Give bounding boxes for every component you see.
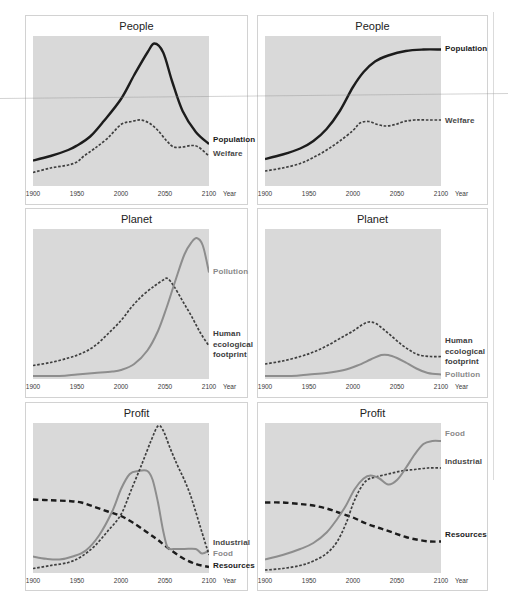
x-axis-label: Year <box>223 577 236 584</box>
plot-area <box>265 36 441 186</box>
series-label-resources: Resources <box>445 530 487 541</box>
x-tick: 1950 <box>302 383 316 390</box>
x-axis-label: Year <box>455 383 468 390</box>
x-tick: 2050 <box>390 577 404 584</box>
x-tick: 1900 <box>26 190 40 197</box>
x-axis-label: Year <box>455 190 468 197</box>
x-tick: 2000 <box>114 190 128 197</box>
chart-panel-people-left: People WelfarePopulation 190019502000205… <box>25 15 248 205</box>
x-axis: 19001950200020502100Year <box>258 383 487 395</box>
x-tick: 2050 <box>390 190 404 197</box>
series-label-welfare: Welfare <box>445 116 474 127</box>
x-axis: 19001950200020502100Year <box>258 190 487 202</box>
x-tick: 2100 <box>202 577 216 584</box>
x-tick: 1950 <box>70 190 84 197</box>
series-curve-population <box>33 44 209 161</box>
chart-canvas <box>33 229 209 379</box>
x-axis-label: Year <box>223 190 236 197</box>
chart-title: Planet <box>26 213 247 225</box>
x-tick: 2000 <box>346 190 360 197</box>
chart-canvas <box>265 36 441 186</box>
series-label-industrial: Industrial <box>213 538 250 549</box>
series-label-food: Food <box>445 429 465 440</box>
series-labels: HumanecologicalfootprintPollution <box>213 229 257 379</box>
series-curve-human-ecological-footprint <box>33 278 209 365</box>
x-axis: 19001950200020502100Year <box>26 190 247 202</box>
x-tick: 1900 <box>26 577 40 584</box>
x-tick: 2100 <box>434 190 448 197</box>
chart-title: People <box>26 20 247 32</box>
chart-panel-planet-right: Planet PollutionHumanecologicalfootprint… <box>257 208 488 398</box>
series-curve-pollution <box>265 355 441 377</box>
series-label-resources: Resources <box>213 561 255 572</box>
chart-title: Planet <box>258 213 487 225</box>
x-tick: 2000 <box>114 577 128 584</box>
x-tick: 1950 <box>302 190 316 197</box>
x-tick: 2000 <box>346 577 360 584</box>
plot-area <box>33 423 209 573</box>
chart-title: Profit <box>26 407 247 419</box>
scanned-figure-page: { "page": { "plot_background": "#d9d9d9"… <box>0 0 508 602</box>
x-tick: 2100 <box>434 577 448 584</box>
series-labels: WelfarePopulation <box>445 36 489 186</box>
x-tick: 1950 <box>70 383 84 390</box>
x-tick: 1900 <box>258 383 272 390</box>
x-tick: 2100 <box>202 190 216 197</box>
x-axis: 19001950200020502100Year <box>26 383 247 395</box>
x-tick: 2050 <box>390 383 404 390</box>
series-label-pollution: Pollution <box>445 370 480 381</box>
x-tick: 1950 <box>70 577 84 584</box>
x-tick: 1900 <box>26 383 40 390</box>
series-label-population: Population <box>213 135 255 146</box>
x-tick: 1950 <box>302 577 316 584</box>
x-axis: 19001950200020502100Year <box>258 577 487 589</box>
chart-panel-profit-right: Profit ResourcesIndustrialFood 190019502… <box>257 402 488 591</box>
series-curve-resources <box>265 502 441 541</box>
x-tick: 2050 <box>158 383 172 390</box>
series-label-industrial: Industrial <box>445 457 482 468</box>
x-tick: 2100 <box>202 383 216 390</box>
series-curve-welfare <box>265 120 441 171</box>
plot-area <box>33 229 209 379</box>
chart-canvas <box>265 229 441 379</box>
series-curve-food <box>265 441 441 560</box>
chart-panel-people-right: People WelfarePopulation 190019502000205… <box>257 15 488 205</box>
series-curve-industrial <box>33 425 209 568</box>
chart-canvas <box>33 423 209 573</box>
plot-area <box>33 36 209 186</box>
series-labels: ResourcesIndustrialFood <box>445 423 489 573</box>
chart-title: People <box>258 20 487 32</box>
chart-panel-profit-left: Profit ResourcesFoodIndustrial 190019502… <box>25 402 248 591</box>
chart-canvas <box>33 36 209 186</box>
plot-area <box>265 423 441 573</box>
series-curve-human-ecological-footprint <box>265 322 441 364</box>
series-curve-industrial <box>265 468 441 570</box>
series-label-pollution: Pollution <box>213 267 248 278</box>
series-label-food: Food <box>213 549 233 560</box>
chart-title: Profit <box>258 407 487 419</box>
x-axis-label: Year <box>455 577 468 584</box>
x-axis: 19001950200020502100Year <box>26 577 247 589</box>
series-curve-welfare <box>33 120 209 173</box>
series-curve-population <box>265 49 441 159</box>
x-axis-label: Year <box>223 383 236 390</box>
series-labels: WelfarePopulation <box>213 36 257 186</box>
x-tick: 2100 <box>434 383 448 390</box>
chart-panel-planet-left: Planet HumanecologicalfootprintPollution… <box>25 208 248 398</box>
series-labels: ResourcesFoodIndustrial <box>213 423 257 573</box>
x-tick: 1900 <box>258 190 272 197</box>
x-tick: 2050 <box>158 190 172 197</box>
x-tick: 1900 <box>258 577 272 584</box>
series-curve-pollution <box>33 238 209 376</box>
x-tick: 2000 <box>114 383 128 390</box>
plot-area <box>265 229 441 379</box>
x-tick: 2050 <box>158 577 172 584</box>
series-curve-resources <box>33 500 209 568</box>
series-labels: PollutionHumanecologicalfootprint <box>445 229 489 379</box>
chart-canvas <box>265 423 441 573</box>
x-tick: 2000 <box>346 383 360 390</box>
scan-artifact-vertical-line <box>493 12 494 480</box>
series-label-human-ecological-footprint: Humanecologicalfootprint <box>445 336 485 368</box>
series-label-population: Population <box>445 44 487 55</box>
series-label-welfare: Welfare <box>213 149 242 160</box>
